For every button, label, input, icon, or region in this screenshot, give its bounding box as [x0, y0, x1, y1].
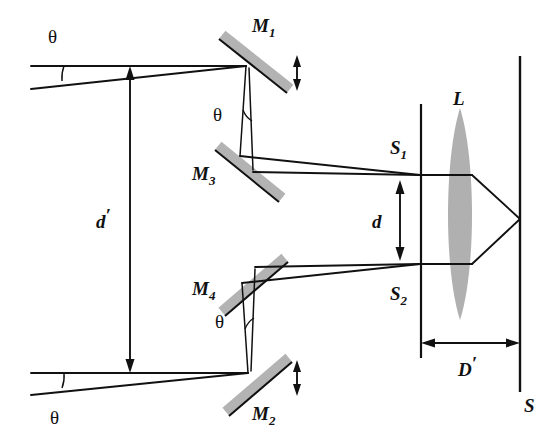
D-prime-arrowhead-right [506, 339, 520, 348]
upper-fold-rays [240, 66, 420, 175]
m2-adjust-arrow-down [293, 384, 301, 396]
lower-fold-rays [242, 264, 420, 373]
label-theta-upper-mirror: θ [213, 104, 222, 125]
top-left-angle-arc [62, 66, 64, 81]
bottom-incoming-beam [31, 373, 248, 395]
bottom-left-angle-arc [62, 373, 64, 388]
d-prime-dimension [126, 66, 135, 373]
m1-adjust-arrow-up [293, 55, 301, 67]
mirror-m3-edge [215, 150, 279, 202]
mirror-m1[interactable] [219, 35, 290, 93]
mirror-m2-adjust-arrow[interactable] [293, 360, 301, 396]
optics-diagram-figure: θ θ θ θ M1 M2 M3 M4 S1 S2 L S d d′ D′ [0, 0, 553, 431]
D-prime-dimension [421, 339, 520, 348]
D-prime-arrowhead-left [421, 339, 435, 348]
label-theta-top-left: θ [48, 26, 57, 47]
mirror-m1-adjust-arrow[interactable] [293, 55, 301, 91]
label-slit-s2: S2 [390, 283, 408, 308]
d-prime-arrowhead-top [126, 66, 135, 80]
d-arrowhead-bottom [396, 247, 405, 261]
label-separation-d: d [372, 211, 382, 232]
lens-exit-ray-top [472, 175, 520, 219]
m2-adjust-arrow-up [293, 360, 301, 372]
top-incoming-beam [31, 66, 246, 89]
lens-exit-ray-bottom [472, 219, 520, 264]
optics-diagram-canvas: θ θ θ θ M1 M2 M3 M4 S1 S2 L S d d′ D′ [0, 0, 553, 431]
d-prime-arrowhead-bottom [126, 359, 135, 373]
label-theta-bottom-left: θ [50, 407, 59, 428]
d-arrowhead-top [396, 180, 405, 194]
m1-adjust-arrow-down [293, 79, 301, 91]
label-theta-lower-mirror: θ [215, 311, 224, 332]
label-mirror-m4: M4 [191, 278, 216, 303]
label-separation-d-prime: d′ [96, 205, 111, 232]
label-mirror-m2: M2 [251, 403, 276, 428]
d-dimension [396, 180, 405, 261]
label-distance-D-prime: D′ [457, 353, 477, 380]
label-lens-l: L [452, 88, 465, 109]
mirror-m4-edge [225, 262, 288, 316]
label-mirror-m1: M1 [251, 15, 275, 40]
mirror-m1-face [222, 35, 290, 89]
lens-body [448, 108, 472, 320]
label-slit-s1: S1 [390, 137, 407, 162]
label-screen-s: S [524, 395, 535, 416]
label-mirror-m3: M3 [191, 163, 216, 188]
mirror-m3[interactable] [215, 146, 282, 202]
